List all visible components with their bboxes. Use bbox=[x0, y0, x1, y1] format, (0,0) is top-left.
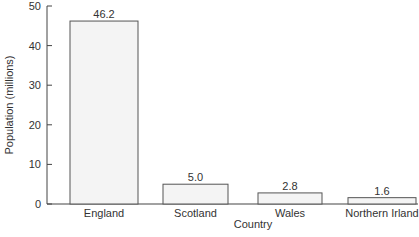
bar bbox=[348, 198, 416, 204]
y-tick-label: 0 bbox=[35, 198, 41, 210]
bar-value-label: 2.8 bbox=[282, 180, 297, 192]
y-tick-label: 40 bbox=[29, 40, 41, 52]
bar-chart: 01020304050 46.2England5.0Scotland2.8Wal… bbox=[0, 0, 419, 237]
y-axis-label: Population (millions) bbox=[3, 55, 15, 154]
x-tick-label: Wales bbox=[275, 207, 306, 219]
x-tick-label: England bbox=[84, 207, 124, 219]
x-tick-label: Scotland bbox=[174, 207, 217, 219]
bar bbox=[258, 193, 322, 204]
x-axis-label: Country bbox=[234, 218, 273, 230]
bar-value-label: 1.6 bbox=[374, 185, 389, 197]
y-tick-label: 50 bbox=[29, 0, 41, 12]
bar-value-label: 5.0 bbox=[188, 171, 203, 183]
bar bbox=[163, 184, 228, 204]
y-tick-label: 10 bbox=[29, 158, 41, 170]
bars: 46.2England5.0Scotland2.8Wales1.6Norther… bbox=[70, 8, 419, 219]
bar-value-label: 46.2 bbox=[93, 8, 114, 20]
x-tick-label: Northern Irland bbox=[345, 207, 418, 219]
bar bbox=[70, 21, 138, 204]
y-tick-label: 20 bbox=[29, 119, 41, 131]
y-tick-label: 30 bbox=[29, 79, 41, 91]
